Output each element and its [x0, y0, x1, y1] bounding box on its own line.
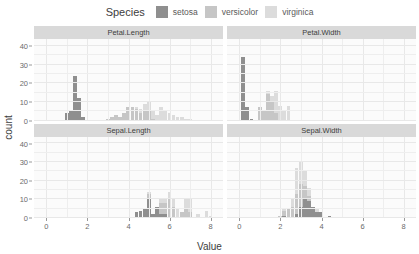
- facet-strip-petal-length: Petal.Length: [34, 26, 223, 39]
- y-tick-label: 10: [20, 97, 28, 106]
- x-tick-label: 4: [319, 222, 323, 231]
- facet-grid: Petal.Length Petal.Width Sepal.Length Se…: [34, 26, 416, 218]
- x-tick-label: 6: [167, 222, 171, 231]
- histogram-bar: [241, 57, 245, 111]
- x-tick-mark: [322, 218, 323, 221]
- histogram-bar: [287, 106, 291, 121]
- x-tick-mark: [129, 218, 130, 221]
- x-tick-label: 8: [402, 222, 406, 231]
- facet-sepal-length: Sepal.Length: [34, 124, 223, 219]
- panel-sepal-width: [227, 137, 416, 219]
- x-tick-mark: [170, 218, 171, 221]
- legend-swatch-versicolor-icon: [205, 6, 217, 18]
- y-axis-ticks-bottom: 010203040: [0, 137, 32, 219]
- y-axis-ticks-top: 010203040: [0, 39, 32, 121]
- x-tick-label: 4: [126, 222, 130, 231]
- y-tick-mark: [29, 218, 32, 219]
- legend-swatch-setosa-icon: [156, 6, 168, 18]
- facet-strip-sepal-width: Sepal.Width: [227, 124, 416, 137]
- x-tick-label: 0: [44, 222, 48, 231]
- chart-legend: Species setosa versicolor virginica: [0, 2, 419, 22]
- x-tick-mark: [280, 218, 281, 221]
- x-tick-mark: [211, 218, 212, 221]
- facet-strip-sepal-length: Sepal.Length: [34, 124, 223, 137]
- histogram-chart: Species setosa versicolor virginica coun…: [0, 0, 419, 254]
- x-axis-ticks-left: 02468: [34, 218, 223, 232]
- y-tick-label: 30: [20, 60, 28, 69]
- x-tick-mark: [239, 218, 240, 221]
- legend-swatch-virginica-icon: [265, 6, 277, 18]
- facet-petal-length: Petal.Length: [34, 26, 223, 121]
- y-tick-label: 10: [20, 195, 28, 204]
- x-tick-mark: [404, 218, 405, 221]
- legend-key-virginica: virginica: [265, 6, 313, 18]
- legend-label-setosa: setosa: [173, 7, 198, 17]
- y-tick-label: 30: [20, 158, 28, 167]
- legend-title: Species: [106, 6, 145, 18]
- y-tick-mark: [29, 162, 32, 163]
- facet-sepal-width: Sepal.Width: [227, 124, 416, 219]
- y-tick-label: 40: [20, 42, 28, 51]
- y-tick-mark: [29, 46, 32, 47]
- x-tick-label: 0: [237, 222, 241, 231]
- panel-sepal-length: [34, 137, 223, 219]
- x-tick-label: 8: [209, 222, 213, 231]
- y-tick-mark: [29, 180, 32, 181]
- x-tick-label: 2: [85, 222, 89, 231]
- y-tick-mark: [29, 83, 32, 84]
- legend-label-virginica: virginica: [282, 7, 313, 17]
- x-tick-mark: [87, 218, 88, 221]
- y-tick-label: 20: [20, 176, 28, 185]
- x-tick-label: 6: [360, 222, 364, 231]
- panel-petal-width: [227, 39, 416, 121]
- y-tick-mark: [29, 120, 32, 121]
- y-tick-mark: [29, 199, 32, 200]
- histogram-bar: [172, 199, 176, 206]
- histogram-bar: [291, 199, 295, 206]
- x-axis-ticks-right: 02468: [227, 218, 416, 232]
- y-tick-label: 0: [24, 214, 28, 223]
- y-tick-mark: [29, 64, 32, 65]
- y-tick-mark: [29, 143, 32, 144]
- x-tick-label: 2: [278, 222, 282, 231]
- x-tick-mark: [363, 218, 364, 221]
- y-tick-label: 40: [20, 139, 28, 148]
- panel-petal-length: [34, 39, 223, 121]
- facet-petal-width: Petal.Width: [227, 26, 416, 121]
- legend-key-versicolor: versicolor: [205, 6, 258, 18]
- legend-label-versicolor: versicolor: [222, 7, 258, 17]
- legend-key-setosa: setosa: [156, 6, 198, 18]
- y-tick-mark: [29, 101, 32, 102]
- x-axis-title: Value: [0, 241, 419, 252]
- x-tick-mark: [46, 218, 47, 221]
- facet-strip-petal-width: Petal.Width: [227, 26, 416, 39]
- y-tick-label: 0: [24, 116, 28, 125]
- y-tick-label: 20: [20, 79, 28, 88]
